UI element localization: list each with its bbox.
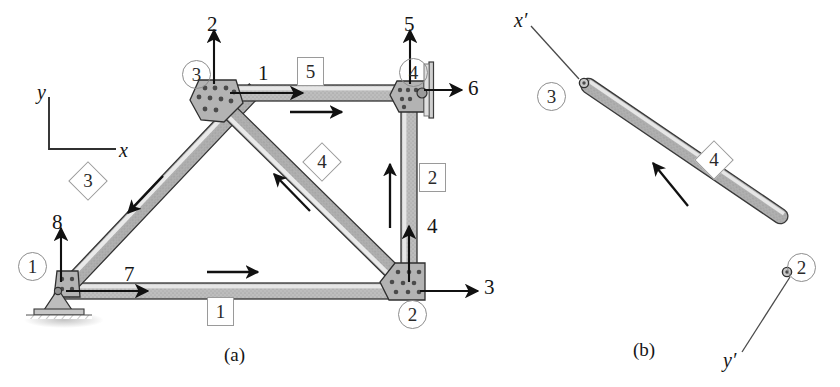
local-node-circle-3: 3 [537, 82, 566, 111]
dof-label-7: 7 [124, 264, 135, 285]
member-box-2: 2 [419, 163, 446, 192]
dof-label-2: 2 [207, 14, 218, 35]
node-circle-4: 4 [399, 58, 428, 87]
dof-label-4: 4 [427, 216, 438, 237]
local-axis-x-label: x′ [514, 10, 527, 30]
member-4-isolated [578, 75, 791, 226]
truss-figure [0, 0, 840, 387]
node-circle-1: 1 [18, 252, 47, 281]
pin-node-3-hole [582, 81, 585, 84]
member-box-1: 1 [207, 297, 234, 326]
local-axis-y-line [742, 277, 790, 352]
caption-b: (b) [633, 340, 655, 359]
caption-a: (a) [224, 345, 245, 364]
panel-a-members [58, 81, 417, 299]
dof-label-6: 6 [468, 78, 479, 99]
panel-b [531, 26, 792, 352]
dof-label-8: 8 [52, 212, 63, 233]
dof-label-3: 3 [484, 277, 495, 298]
global-axis-y-label: y [37, 82, 46, 102]
member-box-5: 5 [297, 57, 324, 86]
dof-label-1: 1 [258, 63, 269, 84]
node-circle-2: 2 [398, 300, 427, 329]
local-axis-x-line [531, 26, 579, 79]
force-dir-member-4-local [653, 163, 688, 206]
global-axis-x-label: x [119, 140, 128, 160]
node-circle-3: 3 [182, 60, 211, 89]
local-axis-y-label: y′ [723, 350, 736, 370]
dof-label-5: 5 [404, 14, 415, 35]
local-node-circle-2: 2 [787, 253, 816, 282]
global-axes [49, 97, 116, 149]
